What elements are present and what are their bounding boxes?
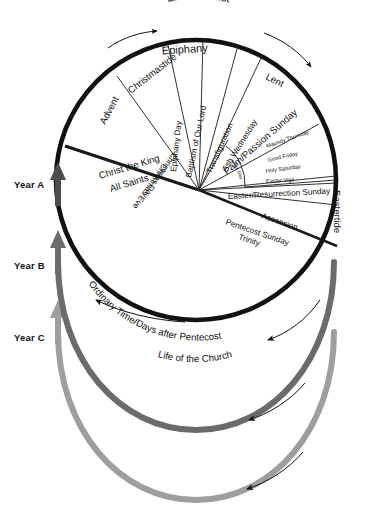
label-life-of-christ: Life of Christ: [166, 0, 231, 5]
year-cycle-label-c: Year C: [14, 332, 45, 343]
liturgical-year-diagram: Life of Christ Ordinary Time/Days after …: [0, 0, 366, 515]
label-life-of-the-church: Life of the Church: [157, 348, 233, 364]
year-cycle-label-a: Year A: [14, 179, 44, 190]
year-cycle-label-b: Year B: [14, 260, 45, 271]
top-left-direction-arrow: [108, 31, 157, 48]
bottom-right-direction-arrow: [268, 300, 320, 340]
sector-label-eastertide: Eastertide: [332, 190, 343, 233]
